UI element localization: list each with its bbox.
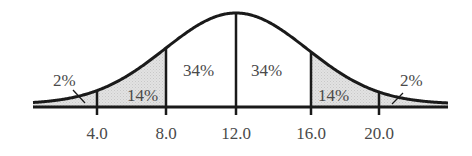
x-tick-20: 20.0 (364, 124, 394, 143)
label-left-tail: 2% (53, 71, 76, 90)
normal-distribution-chart: 2% 14% 34% 34% 14% 2% 4.0 8.0 12.0 16.0 … (0, 0, 472, 156)
label-right-mid: 14% (318, 86, 349, 105)
x-tick-8: 8.0 (155, 124, 176, 143)
x-tick-12: 12.0 (221, 124, 251, 143)
bell-curve (33, 13, 448, 103)
label-left-center: 34% (183, 61, 214, 80)
chart-canvas: 2% 14% 34% 34% 14% 2% 4.0 8.0 12.0 16.0 … (0, 0, 472, 156)
x-tick-16: 16.0 (296, 124, 326, 143)
x-tick-4: 4.0 (86, 124, 107, 143)
label-right-tail: 2% (400, 71, 423, 90)
label-left-mid: 14% (127, 86, 158, 105)
label-right-center: 34% (251, 61, 282, 80)
